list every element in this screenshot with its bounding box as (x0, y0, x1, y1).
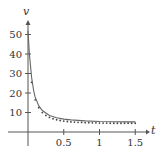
y-tick-label: 40 (9, 49, 22, 60)
data-point (38, 107, 40, 109)
data-point (66, 121, 68, 123)
data-points (31, 81, 136, 124)
y-axis-arrow-icon (26, 20, 31, 25)
data-point (131, 122, 133, 124)
data-point (41, 112, 43, 114)
data-point (109, 122, 111, 124)
y-tick-label: 20 (9, 88, 22, 99)
y-axis-label: v (23, 5, 30, 18)
data-point (52, 118, 54, 120)
data-point (70, 121, 72, 123)
fitted-curve (28, 31, 135, 122)
data-point (88, 122, 90, 124)
data-point (116, 122, 118, 124)
data-point (106, 122, 108, 124)
data-point (124, 122, 126, 124)
data-point (34, 99, 36, 101)
data-point (63, 120, 65, 122)
data-point (134, 122, 136, 124)
y-tick-label: 30 (9, 68, 22, 79)
data-point (91, 122, 93, 124)
data-point (81, 122, 83, 124)
y-tick-label: 10 (9, 107, 22, 118)
x-tick-label: 1.5 (127, 137, 143, 148)
data-point (77, 121, 79, 123)
x-tick-label: 1 (96, 137, 102, 148)
x-axis-arrow-icon (146, 130, 150, 135)
data-point (113, 122, 115, 124)
data-point (74, 121, 76, 123)
data-point (45, 115, 47, 117)
x-tick-label: 0.5 (56, 137, 72, 148)
data-point (59, 120, 61, 122)
y-tick-label: 50 (9, 29, 22, 40)
data-point (102, 122, 104, 124)
data-point (99, 122, 101, 124)
axes (8, 20, 150, 146)
x-axis-label: t (151, 124, 156, 137)
chart: 10203040500.511.5 v t (0, 0, 162, 160)
data-point (127, 122, 129, 124)
data-point (49, 117, 51, 119)
data-point (31, 81, 33, 83)
data-point (95, 122, 97, 124)
data-point (56, 119, 58, 121)
data-point (84, 122, 86, 124)
data-point (120, 122, 122, 124)
